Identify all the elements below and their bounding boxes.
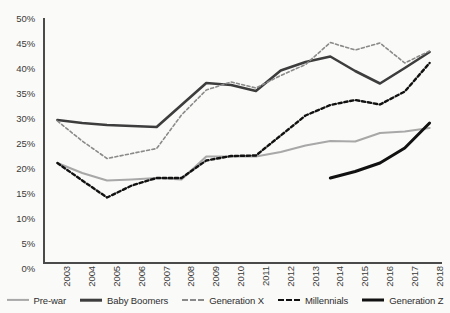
series-line: [330, 123, 429, 178]
legend-label: Baby Boomers: [107, 295, 168, 306]
legend-swatch-icon: [182, 295, 204, 305]
y-axis-tick-label: 50%: [16, 13, 35, 24]
x-axis-tick-label: 2016: [384, 266, 395, 287]
x-axis-tick-label: 2013: [310, 266, 321, 287]
x-axis-tick-label: 2005: [111, 266, 122, 287]
x-axis-tick-label: 2015: [359, 266, 370, 287]
legend-label: Millennials: [305, 295, 348, 306]
legend-label: Pre-war: [34, 295, 67, 306]
series-line: [57, 63, 429, 198]
series-line: [57, 52, 429, 127]
legend-swatch-icon: [80, 295, 102, 305]
y-axis-tick-label: 5%: [21, 238, 35, 249]
x-axis-tick-label: 2010: [235, 266, 246, 287]
x-axis-tick-label: 2009: [210, 266, 221, 287]
x-axis-tick-label: 2004: [86, 266, 97, 287]
x-axis-tick-label: 2017: [409, 266, 420, 287]
legend-item[interactable]: Baby Boomers: [80, 295, 168, 306]
legend-swatch-icon: [362, 295, 384, 305]
legend-item[interactable]: Millennials: [278, 295, 348, 306]
x-axis-tick-label: 2014: [334, 266, 345, 287]
chart-legend: Pre-warBaby BoomersGeneration XMillennia…: [0, 290, 450, 310]
y-axis-tick-label: 25%: [16, 138, 35, 149]
series-line: [57, 43, 429, 159]
y-axis-tick-label: 0%: [21, 263, 35, 274]
series-line: [57, 128, 429, 181]
plot-area: [45, 18, 442, 268]
y-axis-tick-label: 10%: [16, 213, 35, 224]
y-axis-tick-label: 30%: [16, 113, 35, 124]
line-chart: 0%5%10%15%20%25%30%35%40%45%50% 20032004…: [0, 0, 450, 313]
legend-item[interactable]: Generation X: [182, 295, 264, 306]
y-axis-tick-label: 45%: [16, 38, 35, 49]
legend-item[interactable]: Pre-war: [7, 295, 67, 306]
y-axis-tick-label: 40%: [16, 63, 35, 74]
legend-item[interactable]: Generation Z: [362, 295, 443, 306]
x-axis-tick-label: 2012: [285, 266, 296, 287]
x-axis-tick-label: 2018: [434, 266, 445, 287]
x-axis-tick-label: 2008: [185, 266, 196, 287]
legend-swatch-icon: [7, 295, 29, 305]
y-axis-tick-label: 20%: [16, 163, 35, 174]
x-axis-tick-label: 2003: [61, 266, 72, 287]
x-axis-tick-label: 2011: [260, 266, 271, 286]
legend-label: Generation Z: [389, 295, 443, 306]
x-axis-tick-label: 2007: [161, 266, 172, 287]
y-axis-tick-label: 15%: [16, 188, 35, 199]
y-axis: 0%5%10%15%20%25%30%35%40%45%50%: [0, 18, 40, 268]
legend-label: Generation X: [209, 295, 264, 306]
series-layer: [45, 18, 442, 268]
legend-swatch-icon: [278, 295, 300, 305]
y-axis-tick-label: 35%: [16, 88, 35, 99]
x-axis-tick-label: 2006: [136, 266, 147, 287]
